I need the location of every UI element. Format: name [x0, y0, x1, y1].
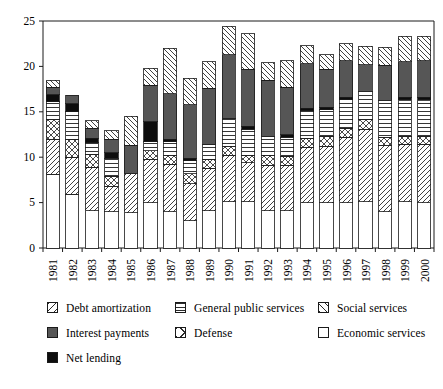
x-axis-tick-label: 1987: [165, 259, 177, 282]
legend-label: Net lending: [66, 352, 121, 364]
plot-area: 0510152025 19811982198319841985198619871…: [0, 0, 443, 300]
x-axis-tick-label: 1981: [47, 259, 59, 282]
y-axis-tick-label: 5: [11, 196, 35, 208]
legend-item-economic-services[interactable]: Economic services: [318, 321, 425, 344]
x-axis-tick-label: 1983: [86, 259, 98, 282]
y-axis-tick-label: 0: [11, 242, 35, 254]
plot-svg: [0, 0, 443, 300]
y-axis-tick-label: 20: [11, 60, 35, 72]
y-axis-tick-label: 25: [11, 15, 35, 27]
legend-item-general-public-services[interactable]: General public services: [175, 296, 304, 319]
legend-item-defense[interactable]: Defense: [175, 321, 232, 344]
x-axis-tick-label: 1985: [125, 259, 137, 282]
legend-swatch-net-lending: [47, 352, 58, 363]
x-axis-tick-label: 1989: [204, 259, 216, 282]
x-axis-tick-label: 1996: [341, 259, 353, 282]
x-axis-tick-label: 1995: [321, 259, 333, 282]
x-axis-tick-label: 1991: [243, 259, 255, 282]
x-axis-tick-label: 1998: [380, 259, 392, 282]
legend-label: General public services: [194, 302, 304, 314]
legend-item-social-services[interactable]: Social services: [318, 296, 407, 319]
x-axis-tick-label: 1988: [184, 259, 196, 282]
x-axis-tick-label: 1993: [282, 259, 294, 282]
x-axis-tick-label: 1990: [223, 259, 235, 282]
y-axis-tick-label: 10: [11, 151, 35, 163]
legend-item-net-lending[interactable]: Net lending: [47, 346, 121, 369]
legend-item-debt-amortization[interactable]: Debt amortization: [47, 296, 151, 319]
legend-row: Debt amortization General public service…: [0, 296, 443, 319]
legend-swatch-debt-amortization: [47, 302, 58, 313]
legend-row: Interest payments Defense Economic servi…: [0, 321, 443, 344]
stacked-bar-chart: 0510152025 19811982198319841985198619871…: [0, 0, 443, 389]
legend-swatch-economic-services: [318, 327, 329, 338]
legend-row: Net lending: [0, 346, 443, 369]
x-axis-tick-label: 1992: [262, 259, 274, 282]
x-axis-tick-label: 1994: [301, 259, 313, 282]
y-axis-tick-label: 15: [11, 105, 35, 117]
x-axis-tick-label: 1997: [360, 259, 372, 282]
legend-label: Debt amortization: [66, 302, 151, 314]
chart-legend: Debt amortization General public service…: [0, 296, 443, 389]
legend-item-interest-payments[interactable]: Interest payments: [47, 321, 149, 344]
legend-label: Social services: [337, 302, 407, 314]
x-axis-tick-label: 1984: [106, 259, 118, 282]
legend-label: Defense: [194, 327, 232, 339]
legend-swatch-interest-payments: [47, 327, 58, 338]
legend-label: Interest payments: [66, 327, 149, 339]
legend-label: Economic services: [337, 327, 425, 339]
legend-swatch-social-services: [318, 302, 329, 313]
x-axis-tick-label: 1986: [145, 259, 157, 282]
legend-swatch-general-public-services: [175, 302, 186, 313]
x-axis-tick-label: 1999: [399, 259, 411, 282]
legend-swatch-defense: [175, 327, 186, 338]
x-axis-tick-label: 1982: [67, 259, 79, 282]
x-axis-tick-label: 2000: [419, 259, 431, 282]
